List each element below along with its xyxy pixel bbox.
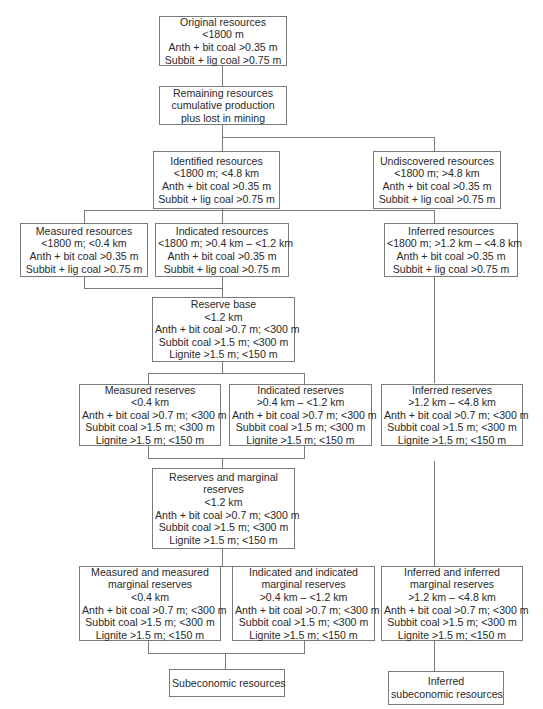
node-line: Anth + bit coal >0.35 m — [387, 250, 515, 263]
node-line: Anth + bit coal >0.35 m — [158, 250, 286, 263]
node-line: Subbit coal >1.5 m; <300 m — [384, 421, 520, 434]
node-measured-marginal-reserves: Measured and measured marginal reserves … — [79, 566, 221, 641]
node-measured-resources: Measured resources <1800 m; <0.4 km Anth… — [20, 223, 148, 277]
node-line: Anth + bit coal >0.7 m; <300 m — [155, 509, 292, 522]
node-title: Indicated resources — [158, 225, 286, 238]
node-title: Identified resources — [156, 155, 277, 168]
connector — [148, 373, 305, 374]
node-indicated-resources: Indicated resources <1800 m; >0.4 km – <… — [155, 223, 289, 277]
node-line: Anth + bit coal >0.7 m; <300 m — [384, 604, 520, 617]
node-line: >1.2 km – <4.8 km — [384, 396, 520, 409]
node-line: >0.4 km – <1.2 km — [232, 396, 369, 409]
node-line: <1800 m; >1.2 km – <4.8 km — [387, 237, 515, 250]
node-line: Anth + bit coal >0.7 m; <300 m — [82, 604, 218, 617]
node-title: Measured and measured — [82, 566, 218, 579]
node-line: Anth + bit coal >0.7 m; <300 m — [155, 323, 292, 336]
node-measured-reserves: Measured reserves <0.4 km Anth + bit coa… — [79, 384, 221, 446]
node-line: Subbit coal >1.5 m; <300 m — [155, 336, 292, 349]
node-line: plus lost in mining — [162, 112, 284, 125]
node-line: <1.2 km — [155, 311, 292, 324]
node-title: marginal reserves — [235, 578, 372, 591]
node-line: Lignite >1.5 m; <150 m — [232, 434, 369, 447]
node-line: Lignite >1.5 m; <150 m — [82, 434, 218, 447]
node-title: Measured reserves — [82, 384, 218, 397]
node-indicated-reserves: Indicated reserves >0.4 km – <1.2 km Ant… — [229, 384, 372, 446]
node-line: cumulative production — [162, 99, 284, 112]
node-reserve-base: Reserve base <1.2 km Anth + bit coal >0.… — [152, 297, 295, 362]
node-line: Subbit + lig coal >0.75 m — [156, 193, 277, 206]
node-subeconomic-resources: Subeconomic resources — [169, 669, 285, 697]
connector — [148, 445, 149, 458]
node-line: Anth + bit coal >0.35 m — [162, 41, 284, 54]
connector — [434, 137, 435, 151]
node-identified-resources: Identified resources <1800 m; <4.8 km An… — [153, 151, 280, 209]
node-inferred-reserves: Inferred reserves >1.2 km – <4.8 km Anth… — [381, 384, 523, 446]
node-line: Lignite >1.5 m; <150 m — [384, 434, 520, 447]
connector — [222, 548, 223, 566]
node-title: Reserve base — [155, 298, 292, 311]
node-title: Remaining resources — [162, 87, 284, 100]
node-inferred-marginal-reserves: Inferred and inferred marginal reserves … — [381, 566, 523, 641]
node-line: Anth + bit coal >0.35 m — [376, 180, 498, 193]
connector — [225, 653, 226, 669]
node-line: Lignite >1.5 m; <150 m — [384, 629, 520, 642]
node-inferred-subeconomic-resources: Inferred subeconomic resources — [388, 671, 504, 705]
node-title: Undiscovered resources — [376, 155, 498, 168]
node-title: Subeconomic resources — [172, 677, 282, 690]
node-title: Indicated and indicated — [235, 566, 372, 579]
node-line: Subbit + lig coal >0.75 m — [162, 54, 284, 67]
node-undiscovered-resources: Undiscovered resources <1800 m; >4.8 km … — [373, 151, 501, 209]
node-line: <1800 m; >4.8 km — [376, 167, 498, 180]
node-line: <1800 m; <0.4 km — [23, 237, 145, 250]
connector — [222, 137, 434, 138]
node-title: Measured resources — [23, 225, 145, 238]
connector — [148, 653, 305, 654]
connector — [148, 373, 149, 384]
connector — [222, 65, 223, 86]
connector — [434, 276, 435, 383]
node-title: Inferred — [391, 675, 501, 688]
node-title: Inferred resources — [387, 225, 515, 238]
node-line: >1.2 km – <4.8 km — [384, 591, 520, 604]
connector — [434, 640, 435, 671]
connector — [304, 640, 305, 653]
node-line: Subbit + lig coal >0.75 m — [158, 263, 286, 276]
node-indicated-marginal-reserves: Indicated and indicated marginal reserve… — [232, 566, 375, 641]
node-title: subeconomic resources — [391, 688, 501, 701]
node-remaining-resources: Remaining resources cumulative productio… — [159, 86, 287, 125]
node-line: Subbit coal >1.5 m; <300 m — [232, 421, 369, 434]
node-line: Anth + bit coal >0.7 m; <300 m — [82, 409, 218, 422]
connector — [84, 210, 434, 211]
node-title: Reserves and marginal — [155, 471, 292, 484]
node-line: Lignite >1.5 m; <150 m — [155, 348, 292, 361]
node-line: Lignite >1.5 m; <150 m — [155, 534, 292, 547]
node-reserves-and-marginal-reserves: Reserves and marginal reserves <1.2 km A… — [152, 468, 295, 549]
node-line: Anth + bit coal >0.7 m; <300 m — [232, 409, 369, 422]
node-line: Subbit coal >1.5 m; <300 m — [82, 616, 218, 629]
node-line: Lignite >1.5 m; <150 m — [235, 629, 372, 642]
node-line: Subbit coal >1.5 m; <300 m — [155, 521, 292, 534]
connector — [222, 288, 223, 297]
node-title: Indicated reserves — [232, 384, 369, 397]
node-line: Subbit + lig coal >0.75 m — [376, 193, 498, 206]
node-line: Anth + bit coal >0.35 m — [156, 180, 277, 193]
node-line: Anth + bit coal >0.7 m; <300 m — [235, 604, 372, 617]
connector — [84, 288, 223, 289]
node-line: Subbit coal >1.5 m; <300 m — [235, 616, 372, 629]
node-line: <0.4 km — [82, 591, 218, 604]
node-line: <1800 m; <4.8 km — [156, 167, 277, 180]
node-original-resources: Original resources <1800 m Anth + bit co… — [159, 16, 287, 66]
node-line: <1.2 km — [155, 496, 292, 509]
node-title: Inferred and inferred — [384, 566, 520, 579]
node-line: Subbit coal >1.5 m; <300 m — [384, 616, 520, 629]
connector — [148, 458, 305, 459]
node-line: Anth + bit coal >0.7 m; <300 m — [384, 409, 520, 422]
connector — [148, 640, 149, 653]
node-line: <1800 m; >0.4 km – <1.2 km — [158, 237, 286, 250]
connector — [304, 445, 305, 458]
node-inferred-resources: Inferred resources <1800 m; >1.2 km – <4… — [384, 223, 518, 277]
node-title: Inferred reserves — [384, 384, 520, 397]
node-title: marginal reserves — [384, 578, 520, 591]
node-line: <1800 m — [162, 28, 284, 41]
node-title: Original resources — [162, 16, 284, 29]
